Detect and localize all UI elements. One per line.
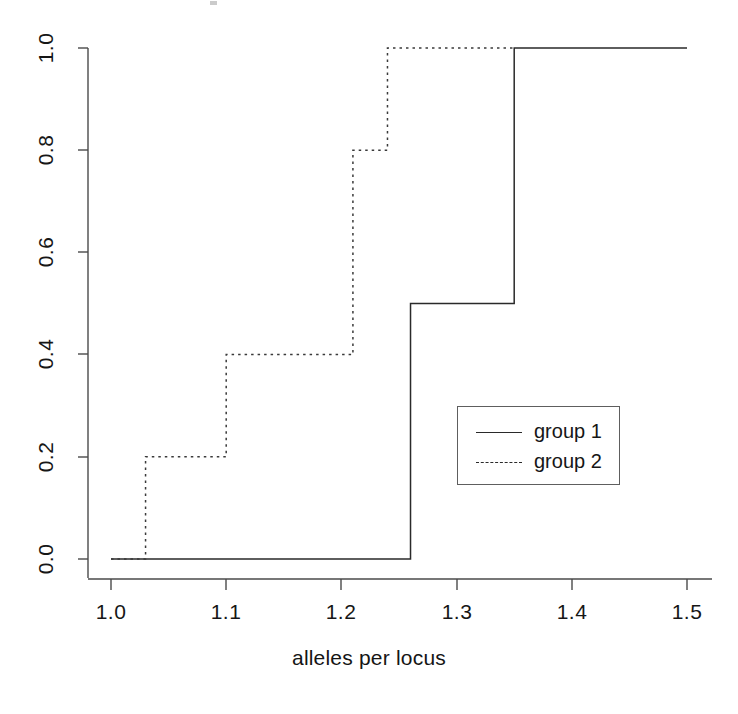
x-tick-label: 1.5 [657,600,717,624]
legend-line-sample-solid [476,432,522,433]
x-axis-title: alleles per locus [0,646,738,670]
legend-box: group 1 group 2 [457,406,620,485]
x-tick-label: 1.1 [196,600,256,624]
y-axis [78,48,88,578]
y-tick-label: 0.2 [34,433,58,481]
x-tick-label: 1.2 [311,600,371,624]
legend-line-sample-dotted [476,462,522,463]
legend-entry-group-1: group 1 [458,418,621,448]
x-tick-label: 1.3 [427,600,487,624]
y-tick-label: 1.0 [34,24,58,72]
legend-entry-group-2: group 2 [458,448,621,478]
legend-label-group-1: group 1 [534,420,602,443]
ecdf-chart-figure: 1.00.80.60.40.20.0 1.01.11.21.31.41.5 al… [0,0,738,714]
y-tick-label: 0.8 [34,126,58,174]
x-axis [88,579,712,590]
scan-speck [210,1,217,5]
legend-label-group-2: group 2 [534,450,602,473]
x-tick-label: 1.4 [542,600,602,624]
x-tick-label: 1.0 [81,600,141,624]
y-tick-label: 0.0 [34,535,58,583]
y-tick-label: 0.4 [34,330,58,378]
y-tick-label: 0.6 [34,228,58,276]
